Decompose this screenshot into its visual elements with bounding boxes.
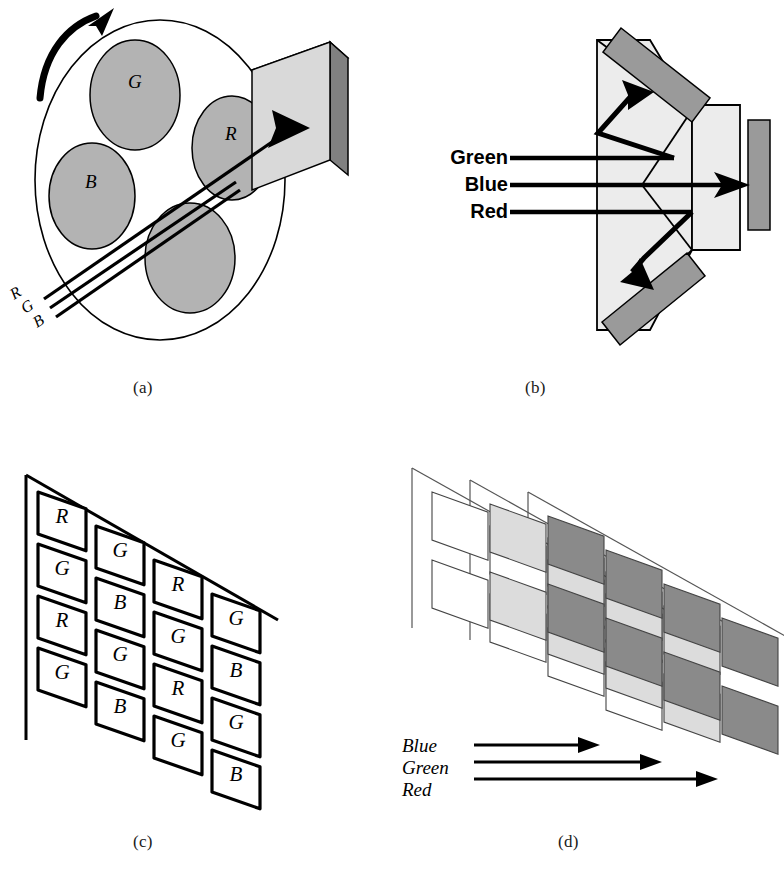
- layer-cell: [722, 618, 778, 686]
- subpixel-cell-label: G: [112, 538, 127, 562]
- beam-label-b: B: [30, 311, 47, 331]
- beam-label-blue: Blue: [465, 173, 508, 195]
- layer-cell: [432, 560, 488, 628]
- layer-cell: [432, 492, 488, 560]
- caption-a: (a): [133, 378, 153, 398]
- subpixel-cell-label: R: [55, 608, 69, 632]
- beam-label-red: Red: [470, 200, 508, 222]
- caption-b: (b): [525, 378, 546, 398]
- layer-label-green: Green: [402, 757, 449, 778]
- subpixel-cell-label: R: [171, 676, 185, 700]
- subpixel-cell-label: B: [230, 762, 243, 786]
- beam-label-green: Green: [450, 146, 508, 168]
- subpixel-cell-label: G: [228, 606, 243, 630]
- projection-screen: [252, 42, 348, 190]
- subpixel-cell-label: B: [114, 694, 127, 718]
- layer-cell: [722, 686, 778, 754]
- panel-d-stacked-layers: Blue Green Red: [392, 430, 784, 880]
- caption-d: (d): [558, 832, 579, 852]
- input-beams-d: [474, 745, 710, 779]
- wheel-segment-label-r: R: [224, 123, 237, 144]
- wheel-segment-label-b: B: [85, 171, 97, 192]
- exit-prism: [692, 105, 740, 250]
- subpixel-cell-label: G: [54, 660, 69, 684]
- layer-label-red: Red: [401, 779, 432, 800]
- caption-c: (c): [133, 832, 153, 852]
- subpixel-cell-label: B: [230, 658, 243, 682]
- imager-blue-right: [748, 120, 770, 230]
- wheel-segment-g: G: [90, 40, 180, 150]
- subpixel-cell-label: G: [112, 642, 127, 666]
- layer-label-blue: Blue: [402, 735, 437, 756]
- subpixel-cell-label: G: [54, 556, 69, 580]
- subpixel-cell-label: G: [170, 728, 185, 752]
- subpixel-cell-label: G: [170, 624, 185, 648]
- subpixel-cell-label: B: [114, 590, 127, 614]
- panel-a-color-wheel: G R B R G B: [0, 0, 392, 400]
- panel-c-subpixel-mosaic: RGRGGBGBRGRGGBGB: [0, 430, 392, 880]
- panel-b-prism-splitter: Green Blue Red: [392, 0, 784, 400]
- subpixel-cell-label: R: [55, 504, 69, 528]
- subpixel-cell-label: R: [171, 572, 185, 596]
- wheel-segment-b: B: [49, 143, 135, 249]
- subpixel-cell-label: G: [228, 710, 243, 734]
- wheel-segment-label-g: G: [128, 71, 142, 92]
